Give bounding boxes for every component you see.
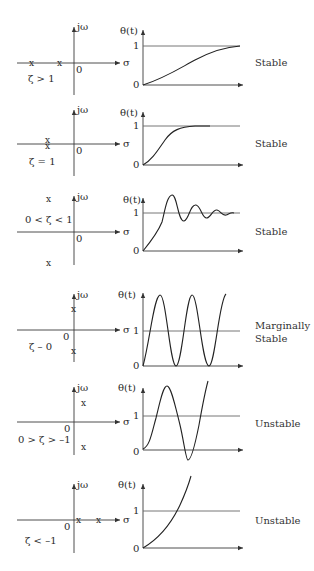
imag-axis-label: jω	[77, 104, 88, 116]
pole-marker: x	[96, 514, 101, 526]
theta-axis-label: θ(t)	[118, 289, 136, 301]
level-zero-label: 0	[133, 543, 139, 555]
level-zero-label: 0	[133, 446, 139, 458]
row-4-response-plot	[143, 293, 243, 366]
damping-condition: 0 > ζ > –1	[18, 434, 71, 446]
theta-axis-label: θ(t)	[123, 194, 141, 206]
theta-axis-label: θ(t)	[120, 25, 138, 37]
pole-marker: x	[29, 57, 34, 69]
level-one-label: 1	[133, 325, 139, 337]
real-axis-label: σ	[123, 416, 130, 428]
real-axis-label: σ	[123, 514, 130, 526]
pole-marker: x	[57, 57, 62, 69]
exponential-growth-curve	[143, 476, 191, 548]
row-1-response-plot	[143, 30, 243, 85]
theta-axis-label: θ(t)	[118, 382, 136, 394]
real-axis-label: σ	[123, 57, 130, 69]
origin-label: 0	[76, 145, 82, 157]
level-zero-label: 0	[133, 79, 139, 91]
stability-status: Stable	[255, 226, 287, 238]
damping-condition: ζ = 1	[29, 156, 56, 168]
real-axis-label: σ	[123, 226, 130, 238]
level-one-label: 1	[133, 207, 139, 219]
imag-axis-label: jω	[77, 289, 88, 301]
sustained-oscillation-curve	[143, 294, 226, 366]
imag-axis-label: jω	[77, 191, 88, 203]
damping-condition: ζ – 0	[29, 341, 52, 353]
underdamped-curve	[143, 195, 234, 251]
stability-status-line-2: Stable	[255, 333, 287, 345]
imag-axis-label: jω	[77, 382, 88, 394]
row-3-response-plot	[143, 195, 243, 251]
level-one-label: 1	[133, 505, 139, 517]
pole-marker: x	[46, 193, 51, 205]
stability-status: Stable	[255, 138, 287, 150]
pole-marker: x	[71, 345, 76, 357]
pole-marker: x	[81, 441, 86, 453]
overdamped-curve	[143, 46, 240, 85]
theta-axis-label: θ(t)	[120, 107, 138, 119]
row-3-s-plane	[17, 196, 120, 265]
level-one-label: 1	[133, 120, 139, 132]
pole-marker: x	[46, 257, 51, 269]
pole-marker: x	[76, 514, 81, 526]
row-5-response-plot	[143, 381, 243, 460]
imag-axis-label: jω	[77, 479, 88, 491]
row-2-response-plot	[143, 112, 243, 165]
stability-status-line-1: Marginally	[255, 320, 310, 332]
damping-condition: 0 < ζ < 1	[25, 214, 73, 226]
stability-status: Stable	[255, 57, 287, 69]
pole-marker: x	[45, 140, 50, 152]
theta-axis-label: θ(t)	[118, 479, 136, 491]
critically-damped-curve	[143, 126, 210, 165]
imag-axis-label: jω	[77, 21, 88, 33]
origin-label: 0	[76, 64, 82, 76]
pole-marker: x	[71, 303, 76, 315]
level-one-label: 1	[133, 40, 139, 52]
origin-label: 0	[64, 521, 70, 533]
stability-status: Unstable	[255, 515, 301, 527]
origin-label: 0	[76, 233, 82, 245]
growing-oscillation-curve	[143, 381, 208, 460]
pole-marker: x	[81, 397, 86, 409]
row-6-response-plot	[143, 476, 243, 548]
level-zero-label: 0	[133, 245, 139, 257]
stability-status: Unstable	[255, 418, 301, 430]
level-one-label: 1	[133, 410, 139, 422]
damping-condition: ζ < –1	[25, 535, 57, 547]
real-axis-label: σ	[123, 324, 130, 336]
damping-condition: ζ > 1	[28, 73, 55, 85]
level-zero-label: 0	[133, 159, 139, 171]
real-axis-label: σ	[123, 138, 130, 150]
origin-label: 0	[63, 331, 69, 343]
level-zero-label: 0	[133, 360, 139, 372]
stability-diagram	[0, 0, 314, 571]
